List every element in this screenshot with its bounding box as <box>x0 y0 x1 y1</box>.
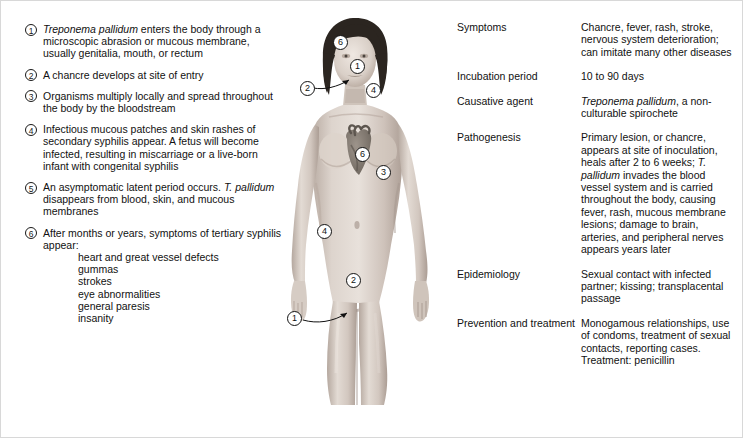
step-item-5: 5 An asymptomatic latent period occurs. … <box>15 181 285 218</box>
step-number-badge: 3 <box>25 90 37 102</box>
step-text-after: disappears from blood, skin, and mucous … <box>43 193 234 217</box>
step-text: After months or years, symptoms of terti… <box>43 227 285 251</box>
tertiary-symptom-list: heart and great vessel defects gummas st… <box>43 251 285 324</box>
row-label: Pathogenesis <box>457 131 581 267</box>
list-item: general paresis <box>78 300 285 312</box>
table-row: Incubation period 10 to 90 days <box>457 70 735 94</box>
list-item: heart and great vessel defects <box>78 251 285 263</box>
anatomical-figure: 6 1 2 4 6 3 4 2 1 <box>289 13 461 405</box>
right-hand <box>413 281 429 322</box>
row-value-after: invades the blood vessel system and is c… <box>581 169 726 255</box>
callout-face-1: 1 <box>350 59 365 74</box>
female-body-illustration <box>289 13 461 405</box>
left-arm <box>292 125 319 283</box>
callout-mouth-2: 2 <box>300 81 315 96</box>
row-label: Symptoms <box>457 21 581 70</box>
numbered-step-list: 1 Treponema pallidum enters the body thr… <box>15 23 285 333</box>
table-row: Prevention and treatment Monogamous rela… <box>457 317 735 379</box>
step-number-badge: 4 <box>25 124 37 136</box>
step-number-badge: 5 <box>25 182 37 194</box>
right-leg <box>359 301 387 405</box>
row-value: Primary lesion, or chancre, appears at s… <box>581 131 735 267</box>
step-text-before: An asymptomatic latent period occurs. <box>43 181 224 193</box>
left-pupil <box>345 55 348 58</box>
step-item-2: 2 A chancre develops at site of entry <box>15 69 285 81</box>
row-value: Chancre, fever, rash, stroke, nervous sy… <box>581 21 735 70</box>
callout-heart-6: 6 <box>355 147 370 162</box>
callout-abdomen-2: 2 <box>346 273 361 288</box>
right-pupil <box>363 55 366 58</box>
step-text: A chancre develops at site of entry <box>43 69 285 81</box>
row-label: Causative agent <box>457 95 581 132</box>
step-text: Organisms multiply locally and spread th… <box>43 90 285 114</box>
step-item-1: 1 Treponema pallidum enters the body thr… <box>15 23 285 60</box>
callout-chest-3: 3 <box>376 165 391 180</box>
row-value: 10 to 90 days <box>581 70 735 94</box>
disease-info-table: Symptoms Chancre, fever, rash, stroke, n… <box>457 21 735 378</box>
table-row: Pathogenesis Primary lesion, or chancre,… <box>457 131 735 267</box>
step-item-4: 4 Infectious mucous patches and skin ras… <box>15 123 285 172</box>
callout-hip-4: 4 <box>317 224 332 239</box>
step-item-3: 3 Organisms multiply locally and spread … <box>15 90 285 114</box>
row-value: Monogamous relationships, use of condoms… <box>581 317 735 379</box>
list-item: gummas <box>78 263 285 275</box>
right-arm <box>398 125 428 283</box>
row-label: Prevention and treatment <box>457 317 581 379</box>
step-text: An asymptomatic latent period occurs. T.… <box>43 181 285 218</box>
row-value-italic: Treponema pallidum <box>581 95 676 107</box>
list-item: eye abnormalities <box>78 288 285 300</box>
callout-head-6: 6 <box>333 35 348 50</box>
pointer-arrow-to-groin <box>301 305 357 327</box>
step-number-badge: 6 <box>25 227 37 239</box>
callout-neck-4: 4 <box>366 83 381 98</box>
step-number-badge: 2 <box>25 69 37 81</box>
step-item-6: 6 After months or years, symptoms of ter… <box>15 227 285 325</box>
callout-groin-1: 1 <box>287 311 302 326</box>
row-label: Incubation period <box>457 70 581 94</box>
pointer-arrow-to-mouth <box>311 75 359 97</box>
step-italic-term: T. pallidum <box>224 181 274 193</box>
row-label: Epidemiology <box>457 268 581 317</box>
step-italic-term: Treponema pallidum <box>43 23 138 35</box>
step-text: Infectious mucous patches and skin rashe… <box>43 123 285 172</box>
list-item: strokes <box>78 275 285 287</box>
navel <box>354 221 359 229</box>
list-item: insanity <box>78 312 285 324</box>
table-row: Causative agent Treponema pallidum, a no… <box>457 95 735 132</box>
syphilis-infographic: 1 Treponema pallidum enters the body thr… <box>0 0 743 438</box>
step-number-badge: 1 <box>25 24 37 36</box>
table-row: Epidemiology Sexual contact with infecte… <box>457 268 735 317</box>
step-text: Treponema pallidum enters the body throu… <box>43 23 285 60</box>
row-value: Treponema pallidum, a non-culturable spi… <box>581 95 735 132</box>
table-row: Symptoms Chancre, fever, rash, stroke, n… <box>457 21 735 70</box>
row-value: Sexual contact with infected partner; ki… <box>581 268 735 317</box>
